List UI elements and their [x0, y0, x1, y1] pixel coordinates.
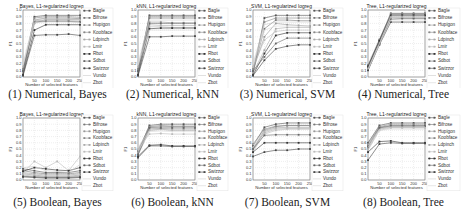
legend-item-koobface: Koobface [208, 135, 228, 140]
y-axis-label: F1 [123, 146, 128, 152]
legend-item-koobface: Koobface [208, 30, 228, 35]
legend-item-hupigon: Hupigon [93, 129, 111, 134]
legend-item-swizzor: Swizzor [93, 66, 110, 71]
legend-item-rbot: Rbot [208, 156, 218, 161]
svg-text:0.8: 0.8 [246, 21, 252, 26]
chart-title: Bayes, L1-regularized logreg [20, 3, 84, 9]
legend-item-ldpinch: Ldpinch [323, 37, 340, 42]
legend-item-zbot: Zbot [93, 80, 103, 85]
svg-text:0.2: 0.2 [246, 61, 252, 66]
svg-text:1.0: 1.0 [131, 115, 137, 120]
y-axis-label: F1 [238, 146, 243, 152]
legend-item-vundo: Vundo [208, 176, 222, 181]
svg-text:0.3: 0.3 [246, 54, 252, 59]
x-axis-label: Number of selected features [255, 185, 308, 190]
legend-item-zbot: Zbot [323, 183, 333, 188]
legend-item-vundo: Vundo [323, 73, 337, 78]
chart-panel-4: Tree, L1-regularized logreg0.00.10.20.30… [345, 0, 462, 108]
svg-text:0.9: 0.9 [16, 122, 22, 127]
svg-text:0.3: 0.3 [361, 54, 367, 59]
svg-text:0.2: 0.2 [16, 165, 22, 170]
y-axis-label: F1 [123, 40, 128, 46]
subfigure-caption: (8) Boolean, Tree [345, 196, 462, 208]
x-axis-label: Number of selected features [140, 185, 193, 190]
line-chart: kNN, L1-regularized logreg0.00.10.20.30.… [115, 108, 230, 196]
svg-text:0.9: 0.9 [16, 14, 22, 19]
svg-text:0.7: 0.7 [131, 134, 137, 139]
svg-text:0.2: 0.2 [131, 61, 137, 66]
svg-text:0.7: 0.7 [16, 28, 22, 33]
svg-text:0.9: 0.9 [131, 122, 137, 127]
legend-item-bagle: Bagle [208, 8, 220, 13]
svg-text:0.0: 0.0 [131, 177, 137, 182]
legend-item-bifrose: Bifrose [208, 15, 223, 20]
svg-text:0.0: 0.0 [16, 177, 22, 182]
legend-item-hupigon: Hupigon [438, 22, 456, 27]
legend-item-bifrose: Bifrose [438, 122, 453, 127]
x-axis-label: Number of selected features [370, 185, 423, 190]
legend-item-bifrose: Bifrose [323, 122, 338, 127]
line-chart: Bayes, L1-regularized logreg0.00.10.20.3… [0, 108, 115, 196]
legend-item-lmir: Lmir [323, 149, 332, 154]
svg-text:0.7: 0.7 [246, 28, 252, 33]
legend-item-swizzor: Swizzor [208, 169, 225, 174]
svg-text:0.2: 0.2 [361, 61, 367, 66]
legend-item-hupigon: Hupigon [323, 22, 341, 27]
chart-title: Tree, L1-regularized logreg [366, 111, 426, 117]
legend-item-swizzor: Swizzor [438, 169, 455, 174]
svg-text:0.1: 0.1 [361, 68, 367, 73]
svg-text:0.0: 0.0 [361, 177, 367, 182]
svg-text:0.6: 0.6 [361, 34, 367, 39]
legend-item-bagle: Bagle [323, 115, 335, 120]
legend-item-rbot: Rbot [438, 51, 448, 56]
legend-item-bagle: Bagle [208, 115, 220, 120]
legend-item-bagle: Bagle [93, 115, 105, 120]
svg-text:0.1: 0.1 [16, 171, 22, 176]
legend-item-swizzor: Swizzor [323, 169, 340, 174]
svg-text:0.3: 0.3 [246, 159, 252, 164]
svg-text:0.7: 0.7 [361, 134, 367, 139]
svg-text:0.4: 0.4 [246, 48, 252, 53]
legend-item-ldpinch: Ldpinch [93, 37, 110, 42]
line-chart: Bayes, L1-regularized logreg0.00.10.20.3… [0, 0, 115, 88]
svg-text:0.6: 0.6 [16, 140, 22, 145]
legend-item-swizzor: Swizzor [323, 66, 340, 71]
svg-text:0.9: 0.9 [361, 122, 367, 127]
chart-title: Tree, L1-regularized logreg [366, 3, 426, 9]
legend-item-rbot: Rbot [93, 156, 103, 161]
legend-item-lmir: Lmir [208, 149, 217, 154]
legend-item-sdbot: Sdbot [208, 58, 221, 63]
svg-text:0.8: 0.8 [246, 128, 252, 133]
svg-text:0.1: 0.1 [131, 68, 137, 73]
legend-item-lmir: Lmir [208, 44, 217, 49]
svg-text:0.3: 0.3 [131, 54, 137, 59]
legend-item-ldpinch: Ldpinch [93, 142, 110, 147]
svg-text:0.8: 0.8 [16, 128, 22, 133]
legend-item-koobface: Koobface [323, 30, 343, 35]
x-axis-label: Number of selected features [370, 82, 423, 87]
legend-item-hupigon: Hupigon [208, 22, 226, 27]
legend-item-bifrose: Bifrose [208, 122, 223, 127]
legend-item-ldpinch: Ldpinch [438, 142, 455, 147]
legend-item-sdbot: Sdbot [323, 163, 336, 168]
legend-item-vundo: Vundo [93, 176, 107, 181]
legend-item-ldpinch: Ldpinch [323, 142, 340, 147]
legend-item-sdbot: Sdbot [93, 163, 106, 168]
x-axis-label: Number of selected features [25, 185, 78, 190]
svg-text:0.1: 0.1 [246, 171, 252, 176]
line-chart: kNN, L1-regularized logreg0.00.10.20.30.… [115, 0, 230, 88]
svg-text:0.0: 0.0 [361, 74, 367, 79]
legend-item-zbot: Zbot [93, 183, 103, 188]
chart-panel-1: Bayes, L1-regularized logreg0.00.10.20.3… [0, 0, 115, 108]
svg-text:0.5: 0.5 [246, 41, 252, 46]
legend-item-hupigon: Hupigon [438, 129, 456, 134]
legend-item-bifrose: Bifrose [93, 122, 108, 127]
legend-item-ldpinch: Ldpinch [208, 142, 225, 147]
chart-title: SVM, L1-regularized logreg [251, 3, 312, 9]
svg-text:0.5: 0.5 [361, 41, 367, 46]
svg-text:0.6: 0.6 [361, 140, 367, 145]
y-axis-label: F1 [238, 40, 243, 46]
svg-text:0.1: 0.1 [246, 68, 252, 73]
subfigure-caption: (7) Boolean, SVM [230, 196, 345, 208]
legend-item-koobface: Koobface [93, 30, 113, 35]
